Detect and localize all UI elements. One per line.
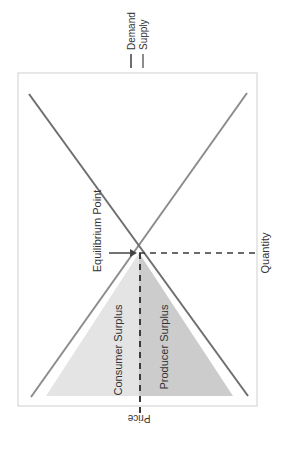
y-axis-label: Price [127, 413, 150, 424]
legend-label-demand: Demand [126, 12, 137, 50]
consumer-surplus-region [46, 253, 139, 396]
x-axis-label: Quantity [259, 232, 271, 273]
supply-demand-chart: Demand Supply Equilibrium Point Quantity… [0, 0, 287, 461]
equilibrium-point-label: Equilibrium Point [91, 190, 103, 273]
producer-surplus-label: Producer Surplus [158, 304, 170, 389]
producer-surplus-region [139, 253, 233, 396]
legend-label-supply: Supply [138, 19, 149, 50]
consumer-surplus-label: Consumer Surplus [112, 304, 124, 396]
